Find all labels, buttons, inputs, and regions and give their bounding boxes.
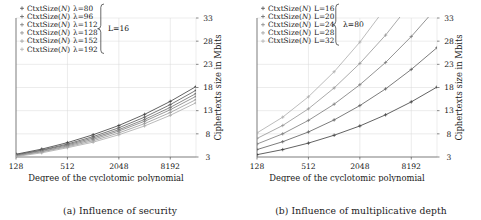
chart-svg-a: 38131823283312851220488192Degree of the … (0, 0, 240, 182)
legend-marker-5 (20, 39, 24, 43)
data-point-marker (194, 95, 197, 98)
x-tick-label: 512 (301, 162, 316, 171)
data-point-marker (255, 148, 258, 151)
data-point-marker (307, 130, 310, 133)
y-axis-ticks: 381318232833 (437, 14, 454, 162)
y-tick-label: 8 (447, 130, 452, 139)
legend-marker-6 (20, 47, 24, 51)
data-point-marker (255, 153, 258, 156)
y-tick-label: 13 (444, 106, 454, 115)
data-point-marker (281, 132, 284, 135)
series-line (16, 90, 196, 154)
legend-marker-4 (261, 31, 265, 35)
caption-panel-a: (a) Influence of security (0, 205, 240, 216)
legend-marker-4 (20, 31, 24, 35)
data-point-marker (435, 85, 438, 88)
y-tick-label: 18 (203, 83, 213, 92)
y-tick-label: 33 (203, 14, 213, 23)
data-point-marker (332, 118, 335, 121)
legend-entry-label: CtxtSize(N) λ=192 (27, 45, 98, 54)
series-line (257, 87, 437, 155)
chart-svg-b: 38131823283312851220488192Degree of the … (241, 0, 481, 182)
data-point-marker (410, 100, 413, 103)
y-tick-label: 23 (444, 60, 454, 69)
legend-marker-3 (261, 23, 265, 27)
data-point-marker (169, 100, 172, 103)
plot-area-a: 38131823283312851220488192Degree of the … (0, 0, 240, 182)
figure-container: 38131823283312851220488192Degree of the … (0, 0, 481, 220)
data-point-marker (194, 101, 197, 104)
chart-legend: CtxtSize(N) λ=80CtxtSize(N) λ=96CtxtSize… (20, 4, 129, 54)
x-tick-label: 8192 (161, 162, 180, 171)
x-tick-label: 512 (60, 162, 75, 171)
chart-panel-b: 38131823283312851220488192Degree of the … (241, 0, 481, 220)
y-tick-label: 28 (203, 37, 213, 46)
x-axis-label: Degree of the cyclotomic polynomial (28, 173, 184, 182)
data-point-marker (143, 124, 146, 127)
data-point-marker (255, 142, 258, 145)
y-axis-label: Ciphertexts size in Mbits (213, 34, 223, 140)
chart-legend: CtxtSize(N) L=16CtxtSize(N) L=20CtxtSize… (261, 4, 364, 46)
y-axis-label: Ciphertexts size in Mbits (454, 34, 464, 140)
data-point-marker (194, 98, 197, 101)
legend-brace (98, 4, 104, 54)
y-tick-label: 8 (206, 130, 211, 139)
data-point-marker (358, 124, 361, 127)
x-axis-label: Degree of the cyclotomic polynomial (269, 173, 425, 182)
legend-marker-1 (261, 6, 265, 10)
legend-marker-5 (261, 39, 265, 43)
x-tick-label: 128 (9, 162, 24, 171)
legend-brace-label: λ=80 (343, 20, 364, 29)
y-tick-label: 18 (444, 83, 454, 92)
y-tick-label: 13 (203, 106, 213, 115)
series-line (257, 48, 437, 150)
x-tick-label: 8192 (402, 162, 421, 171)
y-axis-ticks: 381318232833 (196, 14, 213, 162)
series-line (16, 87, 196, 155)
data-point-marker (307, 141, 310, 144)
x-axis-ticks: 12851220488192 (250, 157, 421, 171)
data-point-marker (255, 137, 258, 140)
data-point-marker (281, 148, 284, 151)
x-tick-label: 2048 (350, 162, 369, 171)
data-point-marker (281, 140, 284, 143)
caption-panel-b: (b) Influence of multiplicative depth (241, 205, 481, 216)
data-point-marker (169, 114, 172, 117)
series-line (16, 94, 196, 156)
chart-panel-a: 38131823283312851220488192Degree of the … (0, 0, 240, 220)
y-tick-label: 23 (203, 60, 213, 69)
x-tick-label: 128 (250, 162, 265, 171)
data-point-marker (384, 113, 387, 116)
x-axis-ticks: 12851220488192 (9, 157, 180, 171)
y-tick-label: 28 (444, 37, 454, 46)
y-tick-label: 33 (444, 14, 454, 23)
legend-brace-label: L=16 (108, 24, 129, 33)
x-tick-label: 2048 (109, 162, 128, 171)
legend-marker-1 (20, 6, 24, 10)
plot-area-b: 38131823283312851220488192Degree of the … (241, 0, 481, 182)
y-tick-label: 3 (206, 153, 211, 162)
y-tick-label: 3 (447, 153, 452, 162)
data-point-marker (194, 89, 197, 92)
legend-marker-3 (20, 23, 24, 27)
legend-entry-label: CtxtSize(N) L=32 (268, 36, 334, 45)
